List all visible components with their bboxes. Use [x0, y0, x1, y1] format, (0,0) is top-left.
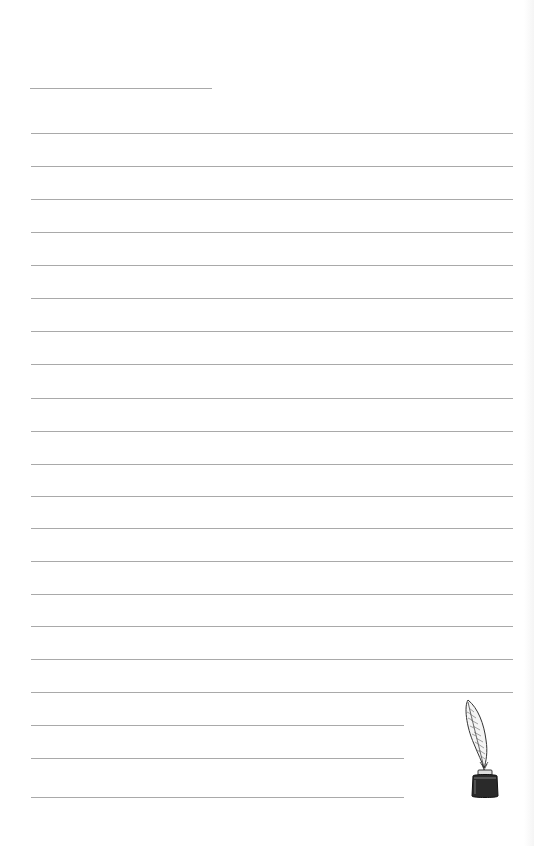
ruled-line [31, 398, 513, 399]
ruled-line [31, 464, 513, 465]
ruled-line [31, 594, 513, 595]
ruled-line [31, 199, 513, 200]
ruled-line [31, 496, 513, 497]
ruled-line [31, 431, 513, 432]
ruled-line [31, 561, 513, 562]
ruled-line [31, 232, 513, 233]
quill-in-inkwell-icon [462, 696, 504, 800]
ruled-line-short [31, 797, 404, 798]
ruled-line [31, 528, 513, 529]
ruled-line [31, 692, 513, 693]
ruled-line [31, 133, 513, 134]
ruled-line [31, 626, 513, 627]
ruled-line [31, 331, 513, 332]
page-edge-shadow [524, 0, 534, 846]
title-line [30, 88, 212, 89]
ruled-line [31, 265, 513, 266]
ruled-line-short [31, 725, 404, 726]
ruled-line [31, 364, 513, 365]
ruled-line [31, 166, 513, 167]
lined-page [0, 0, 534, 846]
ruled-line-short [31, 758, 404, 759]
ruled-line [31, 659, 513, 660]
ruled-line [31, 298, 513, 299]
